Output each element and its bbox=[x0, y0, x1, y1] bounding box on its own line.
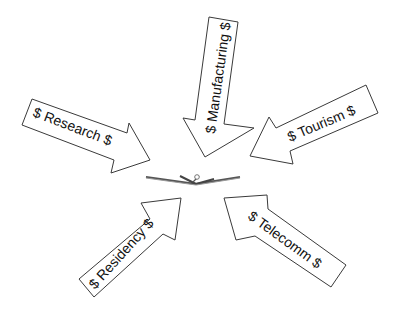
arrow-research: $ Research $ bbox=[22, 99, 150, 173]
open-book-icon bbox=[146, 175, 240, 185]
arrow-manufacturing: $ Manufacturing $ bbox=[183, 17, 254, 157]
arrow-telecomm: $ Telecomm $ bbox=[224, 195, 346, 287]
arrow-label-telecomm: $ Telecomm $ bbox=[245, 207, 325, 271]
arrow-residency: $ Residency $ bbox=[79, 198, 181, 297]
arrow-label-residency: $ Residency $ bbox=[85, 215, 156, 292]
funding-diagram: $ Manufacturing $ $ Research $ $ Tourism… bbox=[0, 0, 398, 317]
arrow-tourism: $ Tourism $ bbox=[250, 85, 378, 164]
